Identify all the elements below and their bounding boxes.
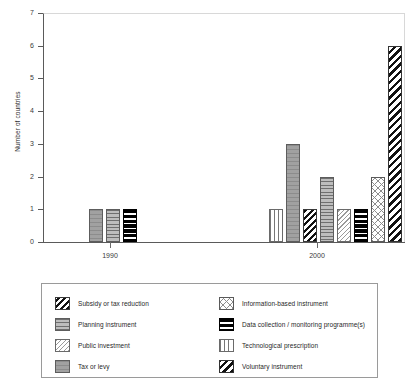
bar bbox=[123, 209, 137, 242]
y-axis-label: 3 bbox=[20, 140, 34, 147]
bar bbox=[388, 46, 402, 242]
y-axis-label: 4 bbox=[20, 107, 34, 114]
legend-item: Information-based instrument bbox=[219, 293, 365, 314]
legend-item-label: Planning instrument bbox=[78, 321, 136, 328]
legend-swatch-icon bbox=[55, 297, 70, 310]
legend-swatch-icon bbox=[55, 360, 70, 373]
x-axis-tick bbox=[317, 242, 318, 248]
legend-swatch-icon bbox=[55, 339, 70, 352]
bar bbox=[337, 209, 351, 242]
legend-item: Planning instrument bbox=[55, 314, 149, 335]
bar bbox=[303, 209, 317, 242]
x-axis-line bbox=[43, 242, 405, 243]
legend-swatch-icon bbox=[219, 339, 234, 352]
y-axis-label: 6 bbox=[20, 42, 34, 49]
bar bbox=[106, 209, 120, 242]
y-axis-label: 2 bbox=[20, 173, 34, 180]
bar bbox=[269, 209, 283, 242]
legend-item-label: Tax or levy bbox=[78, 363, 110, 370]
legend-item-label: Technological prescription bbox=[242, 342, 318, 349]
legend-item: Data collection / monitoring programme(s… bbox=[219, 314, 365, 335]
y-axis-label: 5 bbox=[20, 74, 34, 81]
legend-item-label: Voluntary instrument bbox=[242, 363, 302, 370]
legend-item-label: Data collection / monitoring programme(s… bbox=[242, 321, 365, 328]
legend-swatch-icon bbox=[219, 360, 234, 373]
legend-item: Voluntary instrument bbox=[219, 356, 365, 377]
bar bbox=[354, 209, 368, 242]
legend-column-right: Information-based instrumentData collect… bbox=[219, 293, 365, 377]
legend-item-label: Subsidy or tax reduction bbox=[78, 300, 149, 307]
legend-swatch-icon bbox=[219, 318, 234, 331]
legend-swatch-icon bbox=[55, 318, 70, 331]
y-axis-label: 0 bbox=[20, 238, 34, 245]
y-axis-label: 1 bbox=[20, 205, 34, 212]
legend-item: Tax or levy bbox=[55, 356, 149, 377]
x-axis-label: 1990 bbox=[102, 252, 118, 259]
bar bbox=[371, 177, 385, 242]
bar bbox=[320, 177, 334, 242]
bar bbox=[89, 209, 103, 242]
y-axis-label: 7 bbox=[20, 9, 34, 16]
legend-column-left: Subsidy or tax reductionPlanning instrum… bbox=[55, 293, 149, 377]
legend-item-label: Public investment bbox=[78, 342, 130, 349]
legend-item: Technological prescription bbox=[219, 335, 365, 356]
y-axis-title: Number of countries bbox=[14, 77, 21, 167]
legend-item: Subsidy or tax reduction bbox=[55, 293, 149, 314]
bar bbox=[286, 144, 300, 242]
x-axis-tick bbox=[110, 242, 111, 248]
x-axis-label: 2000 bbox=[309, 252, 325, 259]
legend-item-label: Information-based instrument bbox=[242, 300, 328, 307]
y-axis-tick bbox=[38, 242, 43, 243]
legend-swatch-icon bbox=[219, 297, 234, 310]
legend: Subsidy or tax reductionPlanning instrum… bbox=[41, 283, 378, 378]
bars-container bbox=[43, 13, 405, 242]
legend-item: Public investment bbox=[55, 335, 149, 356]
